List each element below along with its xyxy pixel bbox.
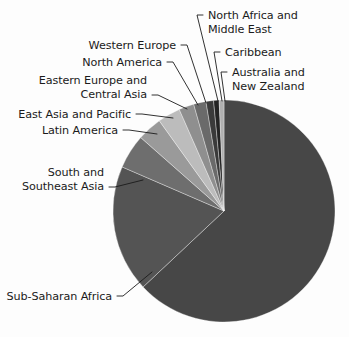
slice-label-north-africa-and-middle-east: North Africa andMiddle East bbox=[208, 9, 298, 36]
slice-label-line: Eastern Europe and bbox=[39, 74, 147, 87]
pie-slices-group bbox=[113, 100, 335, 322]
pie-chart-figure: North Africa andMiddle EastCaribbeanAust… bbox=[0, 0, 349, 337]
slice-label-line: North America bbox=[82, 56, 162, 69]
slice-label-line: Australia and bbox=[232, 66, 305, 79]
slice-label-line: Sub-Saharan Africa bbox=[7, 290, 112, 303]
leader-line-australia-and-new-zealand bbox=[221, 72, 227, 101]
slice-label-sub-saharan-africa: Sub-Saharan Africa bbox=[7, 290, 112, 303]
slice-label-line: South and bbox=[48, 166, 104, 179]
slice-label-line: Latin America bbox=[42, 124, 118, 137]
leader-line-north-america bbox=[167, 62, 198, 105]
pie-chart-canvas: North Africa andMiddle EastCaribbeanAust… bbox=[0, 0, 349, 337]
slice-label-western-europe: Western Europe bbox=[89, 39, 177, 52]
slice-label-south-and-southeast-asia: South andSoutheast Asia bbox=[22, 166, 104, 193]
leader-line-western-europe bbox=[181, 45, 206, 103]
slice-label-line: East Asia and Pacific bbox=[18, 108, 131, 121]
slice-label-north-america: North America bbox=[82, 56, 162, 69]
slice-label-eastern-europe-and-central-asia: Eastern Europe andCentral Asia bbox=[39, 74, 147, 101]
slice-label-line: Western Europe bbox=[89, 39, 177, 52]
slice-label-line: Southeast Asia bbox=[22, 180, 104, 193]
slice-label-east-asia-and-pacific: East Asia and Pacific bbox=[18, 108, 131, 121]
slice-label-line: Caribbean bbox=[225, 46, 282, 59]
leader-line-eastern-europe-and-central-asia bbox=[152, 95, 187, 109]
slice-label-line: Central Asia bbox=[80, 88, 147, 101]
slice-label-australia-and-new-zealand: Australia andNew Zealand bbox=[232, 66, 305, 93]
slice-label-line: New Zealand bbox=[232, 80, 304, 93]
slice-label-line: Middle East bbox=[208, 23, 272, 36]
slice-label-caribbean: Caribbean bbox=[225, 46, 282, 59]
slice-label-line: North Africa and bbox=[208, 9, 298, 22]
leader-line-caribbean bbox=[214, 52, 222, 101]
slice-label-latin-america: Latin America bbox=[42, 124, 118, 137]
